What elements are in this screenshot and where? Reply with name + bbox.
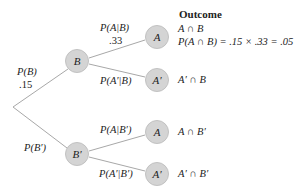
label-p-a-given-b-value: .33 xyxy=(109,35,122,47)
label-p-b-prime: P(B′) xyxy=(24,142,46,154)
node-b-prime: B′ xyxy=(65,142,89,166)
branch-b-prime-to-a xyxy=(89,135,145,151)
label-p-a-prime-given-b: P(A′|B) xyxy=(100,75,131,87)
node-a-bottom: A xyxy=(145,120,169,144)
outcome-heading: Outcome xyxy=(179,8,222,20)
label-p-a-given-b-prime: P(A|B′) xyxy=(100,124,131,136)
outcome-a-and-b-calc: P(A ∩ B) = .15 × .33 = .05 xyxy=(178,36,293,48)
outcome-a-prime-and-b: A′ ∩ B xyxy=(178,74,206,86)
label-p-b: P(B) xyxy=(17,66,37,78)
node-b: B xyxy=(65,49,89,73)
outcome-a-prime-and-b-prime: A′ ∩ B′ xyxy=(178,168,208,180)
label-p-b-value: .15 xyxy=(19,79,32,91)
node-a-prime-top: A′ xyxy=(145,68,169,92)
node-a-prime-bottom: A′ xyxy=(145,162,169,186)
outcome-a-and-b-prime: A ∩ B′ xyxy=(178,126,206,138)
label-p-a-given-b: P(A|B) xyxy=(100,22,129,34)
outcome-a-and-b: A ∩ B xyxy=(178,23,203,35)
node-a-top: A xyxy=(145,25,169,49)
label-p-a-prime-given-b-prime: P(A′|B′) xyxy=(99,168,133,180)
